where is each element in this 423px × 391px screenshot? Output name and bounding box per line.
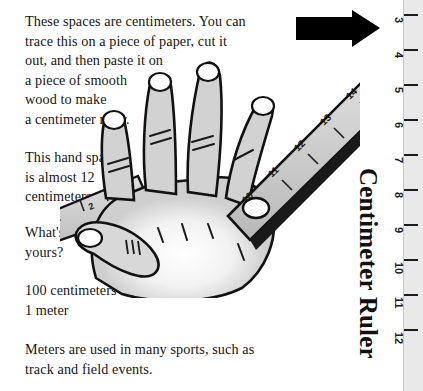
ruler-tick [404, 189, 418, 191]
ruler-tick [404, 224, 418, 226]
ruler-mark: 3 [404, 14, 423, 49]
hand-with-ruler-illustration: 2 3 [60, 48, 360, 298]
ruler-number: 9 [393, 227, 405, 233]
ruler-number: 4 [393, 52, 405, 58]
ruler-tick [404, 14, 418, 16]
page-title-vertical: Centimeter Ruler [352, 168, 384, 391]
ruler-tick [404, 259, 418, 261]
centimeter-ruler-strip: 3 4 5 6 7 8 9 10 [403, 0, 423, 391]
ruler-mark: 8 [404, 189, 423, 224]
ruler-number: 8 [393, 192, 405, 198]
ruler-mark: 7 [404, 154, 423, 189]
ruler-mark: 11 [404, 294, 423, 329]
right-arrow-icon [296, 10, 380, 48]
ruler-mark: 12 [404, 329, 423, 364]
paragraph-meters-sports: Meters are used in many sports, such as … [25, 340, 345, 379]
ruler-tick [404, 154, 418, 156]
ruler-number: 6 [393, 122, 405, 128]
ruler-tick [404, 119, 418, 121]
ruler-tick [404, 84, 418, 86]
ruler-mark: 4 [404, 49, 423, 84]
ruler-tick [404, 329, 418, 331]
ruler-tick [404, 294, 418, 296]
ruler-tick [404, 49, 418, 51]
ruler-number: 10 [393, 262, 405, 274]
ruler-mark: 9 [404, 224, 423, 259]
ruler-number: 5 [393, 87, 405, 93]
ruler-number: 12 [393, 332, 405, 344]
ruler-number: 11 [393, 297, 405, 309]
ruler-number: 3 [393, 17, 405, 23]
ruler-mark: 5 [404, 84, 423, 119]
ruler-mark: 10 [404, 259, 423, 294]
ruler-number: 7 [393, 157, 405, 163]
textbook-page: These spaces are centimeters. You can tr… [0, 0, 423, 391]
ruler-mark: 6 [404, 119, 423, 154]
